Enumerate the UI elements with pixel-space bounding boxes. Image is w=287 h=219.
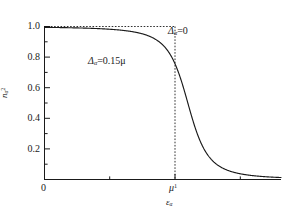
series-delta-gap bbox=[45, 27, 282, 177]
x-axis-title: εα bbox=[166, 198, 172, 208]
series-delta-zero bbox=[45, 27, 176, 180]
y-axis-title-symbol: n bbox=[0, 94, 9, 99]
delta-zero-value: =0 bbox=[177, 25, 188, 36]
y-tick-label-0.4: 0.4 bbox=[16, 113, 40, 123]
y-tick-label-1.0: 1.0 bbox=[16, 21, 40, 31]
y-axis-title-sub: α bbox=[3, 91, 9, 94]
delta-gap-annotation: Δα=0.15μ bbox=[88, 56, 126, 67]
y-tick-label-0.8: 0.8 bbox=[16, 52, 40, 62]
x-tick-label-0: 0 bbox=[41, 183, 46, 193]
y-axis-title-sup: 2 bbox=[0, 88, 6, 91]
delta-zero-annotation: Δα=0 bbox=[168, 26, 188, 37]
x-tick-mu-sup: 1 bbox=[174, 182, 177, 189]
x-tick-label-mu: μ1 bbox=[169, 183, 177, 193]
y-tick-label-0.2: 0.2 bbox=[16, 144, 40, 154]
delta-gap-value: =0.15μ bbox=[97, 55, 126, 66]
y-axis-title: nα2 bbox=[0, 88, 10, 98]
x-axis-title-sub: α bbox=[170, 201, 173, 207]
y-axis-title-wrap: nα2 bbox=[4, 74, 26, 114]
figure-container: 1.0 0.8 0.6 0.4 0.2 0 μ1 εα nα2 Δα=0 Δα=… bbox=[0, 0, 287, 219]
